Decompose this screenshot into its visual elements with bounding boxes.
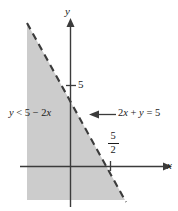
y-intercept-label: 5: [78, 79, 84, 90]
inequality-operator: < 5 − 2: [14, 107, 47, 118]
equation-right-side: = 5: [144, 107, 160, 118]
x-axis-label: x: [167, 160, 172, 171]
fraction-numerator: 5: [105, 131, 121, 143]
line-callout-arrowhead: [89, 111, 99, 119]
y-axis-label: y: [65, 6, 70, 17]
line-equation-label: 2x + y = 5: [118, 108, 160, 119]
equation-plus: +: [128, 107, 139, 118]
graph-canvas: [0, 0, 178, 211]
fraction-denominator: 2: [105, 144, 121, 156]
inequality-variable: x: [47, 107, 52, 118]
x-intercept-fraction-label: 5 2: [105, 131, 121, 155]
y-axis-arrowhead: [67, 18, 75, 27]
inequality-graph-figure: y x 5 y < 5 − 2x 2x + y = 5 5 2: [0, 0, 178, 211]
inequality-region-label: y < 5 − 2x: [9, 108, 51, 119]
